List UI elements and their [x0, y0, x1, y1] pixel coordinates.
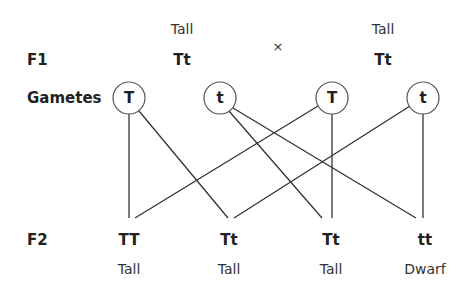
parent-right-phenotype: Tall [372, 21, 395, 37]
offspring-phenotype-4: Dwarf [404, 261, 446, 277]
line-gamete1-to-Tt2 [139, 111, 228, 218]
offspring-phenotype-2: Tall [218, 261, 241, 277]
parent-left-phenotype: Tall [171, 21, 194, 37]
offspring-genotype-2: Tt [220, 231, 237, 249]
row-label-f2: F2 [27, 231, 48, 249]
row-label-f1: F1 [27, 51, 48, 69]
offspring-genotype-3: Tt [322, 231, 339, 249]
cross-lines-diagram: T t T t [0, 0, 471, 297]
line-gamete3-to-TT [135, 106, 318, 218]
line-gamete4-to-Tt2 [234, 106, 410, 218]
offspring-genotype-4: tt [418, 231, 432, 249]
offspring-phenotype-3: Tall [320, 261, 343, 277]
offspring-genotype-1: TT [119, 231, 140, 249]
cross-symbol: × [273, 39, 284, 54]
row-label-gametes: Gametes [27, 89, 102, 107]
offspring-phenotype-1: Tall [118, 261, 141, 277]
gamete-allele-2: t [216, 89, 223, 107]
gamete-allele-1: T [124, 89, 135, 107]
gamete-allele-3: T [327, 89, 338, 107]
gamete-allele-4: t [419, 89, 426, 107]
parent-right-genotype: Tt [374, 51, 391, 69]
parent-left-genotype: Tt [173, 51, 190, 69]
line-gamete2-to-Tt3 [229, 111, 322, 218]
